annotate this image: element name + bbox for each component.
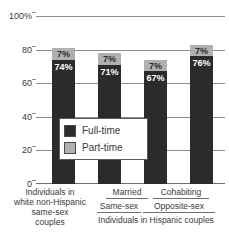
y-tick-100: 100% [9, 12, 32, 21]
bar-segment-part-time: 7% [144, 60, 167, 72]
bar-label-full-time: 71% [98, 67, 121, 77]
y-tick-80: 80 [22, 46, 32, 55]
rule-opposite-sex [143, 212, 215, 213]
x-label-line-2: white non-Hispanic [6, 197, 94, 207]
bar-label-full-time: 67% [144, 73, 167, 83]
legend-item-full-time: Full-time [64, 123, 142, 138]
legend-swatch-full-time-icon [64, 125, 76, 137]
rule-married [106, 198, 148, 199]
gridline-100 [36, 16, 225, 17]
bar-segment-part-time: 7% [98, 53, 121, 65]
x-label-line-4: couples [6, 217, 94, 227]
chart-legend: Full-time Part-time [59, 118, 148, 160]
rule-same-sex [97, 212, 141, 213]
rule-cohabiting [153, 198, 209, 199]
x-label-line-3: same-sex [6, 207, 94, 217]
stacked-bar-chart: 100% 80 60 40 20 0 74% 7% 71% [0, 0, 229, 237]
bar-hispanic-opposite-sex-cohabiting: 76% 7% [190, 45, 213, 184]
bar-label-full-time: 74% [52, 62, 75, 72]
x-label-married: Married [104, 187, 150, 197]
legend-label-part-time: Part-time [82, 142, 123, 153]
x-label-cohabiting: Cohabiting [152, 187, 210, 197]
legend-label-full-time: Full-time [82, 125, 120, 136]
bar-segment-part-time: 7% [190, 45, 213, 57]
x-label-hispanic-group: Individuals in Hispanic couples [96, 215, 216, 225]
x-label-white-non-hispanic-group: Individuals in white non-Hispanic same-s… [6, 187, 94, 227]
bar-label-part-time: 7% [52, 49, 75, 59]
y-tick-40: 40 [22, 113, 32, 122]
y-tick-60: 60 [22, 79, 32, 88]
bar-segment-full-time: 76% [190, 56, 213, 184]
x-label-same-sex: Same-sex [96, 201, 142, 211]
legend-item-part-time: Part-time [64, 140, 142, 155]
bar-label-part-time: 7% [190, 46, 213, 56]
x-axis-labels: Individuals in white non-Hispanic same-s… [0, 184, 229, 237]
bar-label-part-time: 7% [144, 61, 167, 71]
x-label-line-1: Individuals in [6, 187, 94, 197]
bar-label-full-time: 76% [190, 58, 213, 68]
bar-label-part-time: 7% [98, 54, 121, 64]
legend-swatch-part-time-icon [64, 142, 76, 154]
bar-white-non-hispanic-same-sex: 74% 7% [52, 48, 75, 184]
x-label-opposite-sex: Opposite-sex [142, 201, 216, 211]
y-tick-20: 20 [22, 146, 32, 155]
bar-segment-part-time: 7% [52, 48, 75, 60]
y-axis: 100% 80 60 40 20 0 [0, 16, 32, 184]
